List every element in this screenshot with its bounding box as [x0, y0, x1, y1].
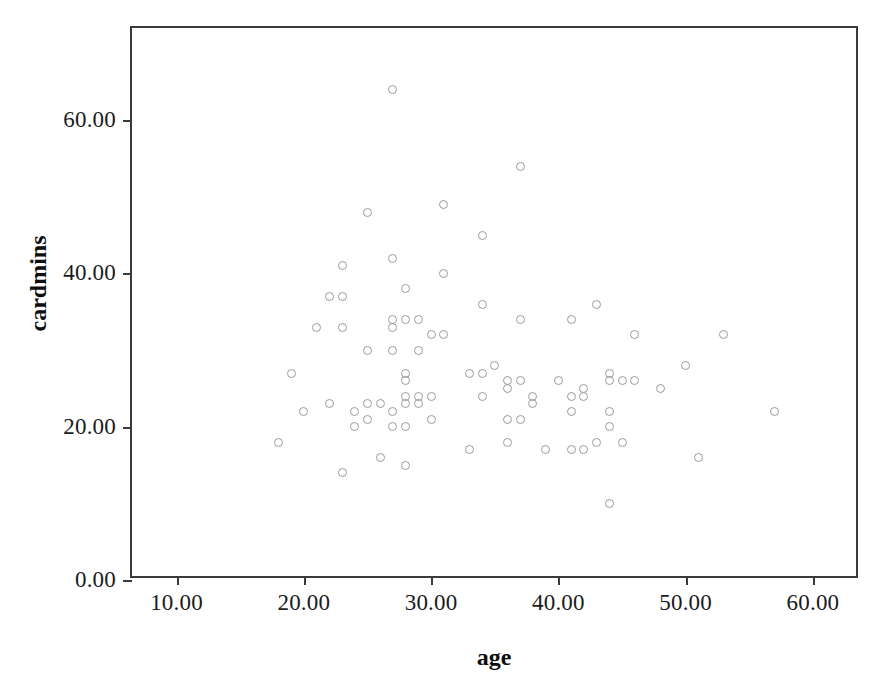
- data-point: [541, 445, 550, 454]
- data-point: [567, 315, 576, 324]
- scatter-plot-page: 0.0020.0040.0060.00 10.0020.0030.0040.00…: [0, 0, 878, 687]
- data-point: [439, 330, 448, 339]
- data-point: [605, 376, 614, 385]
- data-point: [465, 445, 474, 454]
- data-point: [605, 369, 614, 378]
- data-point: [694, 453, 703, 462]
- x-tick-mark: [686, 576, 688, 585]
- data-point: [516, 415, 525, 424]
- data-point: [350, 407, 359, 416]
- data-point: [579, 392, 588, 401]
- data-point: [376, 453, 385, 462]
- data-point: [656, 384, 665, 393]
- data-point: [299, 407, 308, 416]
- data-point: [439, 269, 448, 278]
- data-point: [388, 254, 397, 263]
- y-tick-label: 0.00: [75, 567, 116, 593]
- data-point: [618, 376, 627, 385]
- data-point: [478, 231, 487, 240]
- data-point: [274, 438, 283, 447]
- y-tick-label: 60.00: [63, 107, 116, 133]
- y-axis-title: cardmins: [25, 184, 52, 384]
- y-tick-label: 40.00: [63, 260, 116, 286]
- x-tick-label: 30.00: [405, 590, 458, 616]
- data-point: [363, 415, 372, 424]
- data-point: [338, 292, 347, 301]
- data-point: [516, 162, 525, 171]
- x-tick-mark: [431, 576, 433, 585]
- plot-data-area: [132, 28, 856, 576]
- x-axis-title: age: [130, 644, 858, 671]
- data-point: [363, 346, 372, 355]
- data-point: [414, 346, 423, 355]
- data-point: [338, 468, 347, 477]
- data-point: [325, 399, 334, 408]
- data-point: [465, 369, 474, 378]
- data-point: [478, 369, 487, 378]
- y-tick-mark: [123, 580, 132, 582]
- data-point: [338, 261, 347, 270]
- data-point: [503, 438, 512, 447]
- y-tick-mark: [123, 273, 132, 275]
- data-point: [592, 438, 601, 447]
- data-point: [388, 407, 397, 416]
- data-point: [592, 300, 601, 309]
- data-point: [401, 399, 410, 408]
- data-point: [618, 438, 627, 447]
- data-point: [350, 422, 359, 431]
- data-point: [427, 330, 436, 339]
- data-point: [401, 461, 410, 470]
- data-point: [401, 392, 410, 401]
- x-tick-label: 20.00: [277, 590, 330, 616]
- data-point: [414, 399, 423, 408]
- data-point: [414, 392, 423, 401]
- data-point: [427, 415, 436, 424]
- data-point: [528, 399, 537, 408]
- data-point: [503, 376, 512, 385]
- x-tick-label: 10.00: [150, 590, 203, 616]
- data-point: [579, 384, 588, 393]
- data-point: [401, 422, 410, 431]
- data-point: [770, 407, 779, 416]
- data-point: [630, 330, 639, 339]
- data-point: [503, 415, 512, 424]
- data-point: [388, 346, 397, 355]
- data-point: [528, 392, 537, 401]
- data-point: [478, 392, 487, 401]
- data-point: [567, 407, 576, 416]
- y-tick-mark: [123, 120, 132, 122]
- data-point: [630, 376, 639, 385]
- data-point: [363, 399, 372, 408]
- data-point: [478, 300, 487, 309]
- plot-frame: 0.0020.0040.0060.00 10.0020.0030.0040.00…: [130, 26, 858, 578]
- data-point: [401, 376, 410, 385]
- x-tick-mark: [304, 576, 306, 585]
- data-point: [338, 323, 347, 332]
- data-point: [554, 376, 563, 385]
- data-point: [388, 323, 397, 332]
- x-tick-mark: [558, 576, 560, 585]
- data-point: [325, 292, 334, 301]
- y-tick-mark: [123, 427, 132, 429]
- data-point: [605, 499, 614, 508]
- data-point: [567, 392, 576, 401]
- data-point: [401, 369, 410, 378]
- x-tick-mark: [813, 576, 815, 585]
- data-point: [567, 445, 576, 454]
- data-point: [388, 315, 397, 324]
- data-point: [363, 208, 372, 217]
- y-tick-label: 20.00: [63, 414, 116, 440]
- x-tick-label: 50.00: [659, 590, 712, 616]
- data-point: [516, 315, 525, 324]
- x-tick-label: 40.00: [532, 590, 585, 616]
- data-point: [427, 392, 436, 401]
- data-point: [490, 361, 499, 370]
- data-point: [414, 315, 423, 324]
- data-point: [681, 361, 690, 370]
- data-point: [605, 422, 614, 431]
- data-point: [312, 323, 321, 332]
- data-point: [579, 445, 588, 454]
- data-point: [376, 399, 385, 408]
- data-point: [388, 422, 397, 431]
- data-point: [503, 384, 512, 393]
